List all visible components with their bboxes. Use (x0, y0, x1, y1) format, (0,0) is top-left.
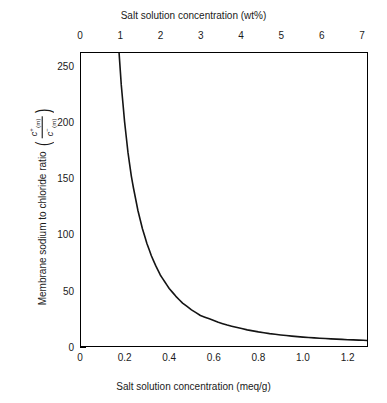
y-axis-ratio-fraction: ( c+(m) c−(m) ) (28, 107, 57, 147)
x-tick-label: 0 (77, 352, 83, 363)
x-tick-label-top: 1 (117, 30, 123, 41)
y-tick-label: 200 (57, 116, 74, 127)
top-axis-title: Salt solution concentration (wt%) (0, 10, 387, 21)
series-line (119, 53, 367, 340)
chart-figure: Salt solution concentration (wt%) Salt s… (0, 0, 387, 403)
left-paren: ( (32, 142, 53, 146)
x-tick-label: 0.4 (162, 352, 176, 363)
y-tick-mark (80, 347, 86, 348)
x-tick-label-top: 4 (238, 30, 244, 41)
x-tick-label: 1.0 (296, 352, 310, 363)
y-axis-title-text: Membrane sodium to chloride ratio (37, 151, 48, 305)
y-tick-label: 50 (63, 285, 74, 296)
x-tick-label: 1.2 (341, 352, 355, 363)
fraction-bar (42, 116, 43, 138)
x-tick-label-top: 5 (279, 30, 285, 41)
ratio-denominator: c−(m) (44, 116, 57, 138)
y-tick-label: 0 (68, 342, 74, 353)
x-tick-label-top: 0 (77, 30, 83, 41)
x-tick-label: 0.8 (251, 352, 265, 363)
x-tick-label-top: 3 (198, 30, 204, 41)
x-tick-label: 0.2 (118, 352, 132, 363)
y-axis-title: Membrane sodium to chloride ratio ( c+(m… (28, 76, 57, 336)
y-tick-label: 250 (57, 60, 74, 71)
right-paren: ) (32, 109, 53, 113)
plot-area (80, 52, 368, 347)
data-curve (81, 53, 367, 346)
x-tick-label: 0.6 (207, 352, 221, 363)
y-tick-label: 150 (57, 173, 74, 184)
y-tick-label: 100 (57, 229, 74, 240)
x-tick-label-top: 6 (319, 30, 325, 41)
bottom-axis-title: Salt solution concentration (meq/g) (0, 381, 387, 392)
ratio-numerator: c+(m) (28, 116, 41, 138)
x-tick-label-top: 7 (359, 30, 365, 41)
x-tick-label-top: 2 (158, 30, 164, 41)
